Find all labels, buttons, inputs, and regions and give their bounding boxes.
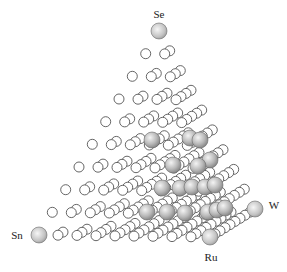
lattice-point	[101, 117, 111, 127]
lattice-point	[53, 230, 63, 240]
lattice-point	[133, 94, 143, 104]
highlighted-point	[207, 177, 223, 193]
highlighted-point	[177, 205, 193, 221]
highlighted-point	[154, 180, 170, 196]
lattice-point	[66, 208, 76, 218]
lattice-point	[150, 163, 160, 173]
lattice-point	[110, 231, 120, 241]
lattice-point	[74, 162, 84, 172]
lattice-point	[137, 186, 147, 196]
lattice-point	[148, 231, 158, 241]
vertex-sphere-w	[247, 201, 263, 217]
highlighted-point	[192, 132, 208, 148]
lattice-point	[160, 49, 170, 59]
lattice-point	[129, 231, 139, 241]
lattice-point	[141, 49, 151, 59]
vertex-label-ru: Ru	[205, 251, 218, 263]
highlighted-point	[159, 204, 175, 220]
lattice-point	[91, 231, 101, 241]
composition-tetrahedron-diagram: Se Sn Ru W	[0, 0, 287, 272]
lattice-point	[87, 139, 97, 149]
lattice-point	[99, 185, 109, 195]
highlighted-point	[139, 204, 155, 220]
lattice-point	[114, 94, 124, 104]
vertex-label-sn: Sn	[11, 229, 23, 241]
highlighted-point	[217, 200, 233, 216]
lattice-point	[163, 140, 173, 150]
lattice-point	[125, 140, 135, 150]
lattice-point	[167, 232, 177, 242]
lattice-point	[72, 230, 82, 240]
lattice-point	[120, 117, 130, 127]
lattice-point	[127, 71, 137, 81]
lattice-point	[123, 208, 133, 218]
lattice-point	[104, 208, 114, 218]
lattice-point	[131, 163, 141, 173]
vertex-sphere-sn	[31, 227, 47, 243]
lattice-point	[158, 117, 168, 127]
lattice-point	[177, 118, 187, 128]
highlighted-point	[190, 158, 206, 174]
lattice-point	[106, 140, 116, 150]
lattice-point	[61, 185, 71, 195]
lattice-point	[112, 162, 122, 172]
lattice-point	[171, 95, 181, 105]
highlighted-point	[165, 157, 181, 173]
lattice-point	[152, 94, 162, 104]
vertex-sphere-se	[151, 23, 167, 39]
lattice-point	[93, 162, 103, 172]
lattice-point	[85, 208, 95, 218]
lattice-point	[80, 185, 90, 195]
highlighted-point	[144, 132, 160, 148]
lattice-point	[186, 232, 196, 242]
vertex-label-se: Se	[154, 8, 165, 20]
lattice-point	[47, 207, 57, 217]
vertex-label-w: W	[269, 199, 280, 211]
lattice-point	[165, 72, 175, 82]
lattice-point	[139, 117, 149, 127]
vertex-sphere-ru	[202, 229, 218, 245]
lattice-point	[118, 185, 128, 195]
lattice-point	[146, 72, 156, 82]
